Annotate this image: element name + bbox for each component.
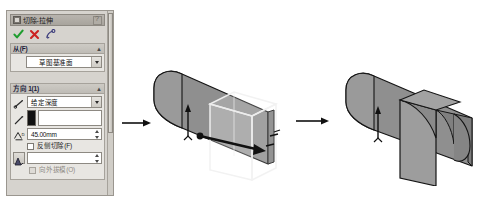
section-from: 从(F) ▲ 草图基准面 — [10, 43, 105, 72]
property-manager-panel: 切除-拉伸 — [6, 10, 114, 196]
stepper-down-icon[interactable] — [95, 160, 99, 163]
flip-side-to-cut-row[interactable]: 反侧切除(F) — [27, 142, 102, 150]
depth-row: D1 45.00mm — [13, 128, 102, 140]
flip-side-to-cut-checkbox[interactable] — [27, 143, 34, 150]
flow-arrow-right — [296, 116, 330, 126]
draft-outward-row: 向外拔模(O) — [29, 166, 102, 174]
cylinder-with-cut-preview — [148, 58, 286, 182]
section-from-title: 从(F) — [13, 45, 28, 53]
help-icon[interactable] — [93, 16, 102, 25]
draft-angle-icon[interactable] — [13, 152, 25, 164]
direction-reference-field[interactable] — [38, 110, 102, 126]
section-from-header[interactable]: 从(F) ▲ — [11, 44, 104, 54]
draft-outward-label: 向外拔模(O) — [39, 166, 75, 174]
section-from-body: 草图基准面 — [11, 54, 104, 71]
draft-angle-stepper[interactable] — [93, 154, 100, 163]
direction-reference-row — [13, 110, 102, 126]
reverse-direction-icon — [13, 112, 25, 124]
cylinder-with-notch-result — [340, 58, 492, 186]
check-icon[interactable] — [13, 29, 24, 40]
chevron-down-icon[interactable] — [91, 57, 101, 67]
property-manager-content: 切除-拉伸 — [7, 11, 108, 195]
depth-stepper[interactable] — [93, 130, 100, 139]
end-condition-row: 给定深度 — [13, 96, 102, 108]
stepper-down-icon[interactable] — [95, 136, 99, 139]
panel-title-bar: 切除-拉伸 — [10, 14, 105, 26]
end-condition-icon — [13, 96, 25, 108]
collapse-caret-icon[interactable]: ▲ — [96, 85, 102, 93]
from-row: 草图基准面 — [13, 56, 102, 68]
from-combo-value: 草图基准面 — [39, 58, 73, 67]
cut-extrude-icon — [13, 16, 21, 24]
stepper-up-icon[interactable] — [95, 154, 99, 157]
end-condition-value: 给定深度 — [31, 98, 58, 107]
flip-side-to-cut-label: 反侧切除(F) — [37, 142, 72, 150]
draft-outward-checkbox — [29, 167, 36, 174]
depth-value: 45.00mm — [31, 130, 57, 139]
section-direction1-title: 方向 1(1) — [13, 85, 39, 93]
end-condition-combo[interactable]: 给定深度 — [27, 96, 102, 108]
panel-toolbar — [11, 28, 107, 41]
svg-text:D1: D1 — [21, 132, 25, 137]
depth-input[interactable]: 45.00mm — [27, 128, 102, 140]
chevron-down-icon[interactable] — [91, 97, 101, 107]
section-direction1: 方向 1(1) ▲ 给定深度 — [10, 83, 105, 180]
depth-icon: D1 — [13, 128, 25, 140]
draft-angle-row — [13, 152, 102, 164]
stepper-up-icon[interactable] — [95, 130, 99, 133]
section-direction1-body: 给定深度 — [11, 94, 104, 179]
panel-title: 切除-拉伸 — [23, 16, 52, 25]
from-combo[interactable]: 草图基准面 — [26, 56, 102, 68]
draft-angle-input[interactable] — [27, 152, 102, 164]
reverse-direction-button[interactable] — [27, 110, 36, 126]
vertical-scrollbar[interactable] — [107, 11, 113, 195]
x-icon[interactable] — [29, 29, 40, 40]
help-detail-icon[interactable] — [45, 29, 56, 40]
section-direction1-header[interactable]: 方向 1(1) ▲ — [11, 84, 104, 94]
scrollbar-thumb[interactable] — [108, 13, 113, 133]
collapse-caret-icon[interactable]: ▲ — [96, 45, 102, 53]
